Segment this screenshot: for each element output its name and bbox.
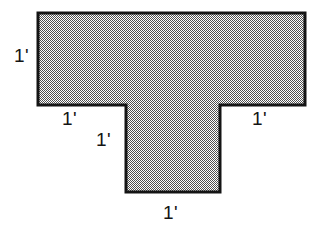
t-shape-drawing bbox=[0, 0, 321, 248]
t-shape-polygon bbox=[38, 13, 305, 192]
dimension-label-top-bar-bottom-left: 1' bbox=[62, 109, 77, 128]
geometry-figure: 1' 1' 1' 1' 1' bbox=[0, 0, 321, 248]
dimension-label-stem-left: 1' bbox=[96, 130, 111, 149]
dimension-label-top-bar-bottom-right: 1' bbox=[252, 109, 267, 128]
dimension-label-left-height: 1' bbox=[14, 46, 29, 65]
dimension-label-stem-bottom: 1' bbox=[163, 203, 178, 222]
